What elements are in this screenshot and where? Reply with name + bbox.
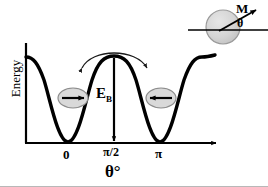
spin-particle-left <box>58 88 88 108</box>
energy-curve <box>26 55 215 142</box>
x-tick-label-pi-over-2: π/2 <box>103 146 119 158</box>
y-axis-label: Energy <box>9 48 22 110</box>
barrier-energy-subscript: B <box>106 94 112 104</box>
energy-barrier-figure: Energy 0 π/2 π θ° EB M θ <box>0 0 268 187</box>
x-axis-label: θ° <box>105 163 121 180</box>
magnetization-label: M <box>236 2 248 15</box>
x-tick-label-0: 0 <box>63 148 70 161</box>
figure-canvas <box>0 0 268 187</box>
spin-particle-right <box>146 88 176 108</box>
barrier-energy-label: EB <box>96 86 112 104</box>
x-tick-label-pi: π <box>155 147 162 160</box>
energy-curve-group <box>26 55 215 142</box>
magnetization-inset <box>188 10 268 44</box>
inset-sphere-icon <box>206 10 240 44</box>
inset-angle-label: θ <box>237 17 243 29</box>
barrier-energy-symbol: E <box>96 85 106 101</box>
